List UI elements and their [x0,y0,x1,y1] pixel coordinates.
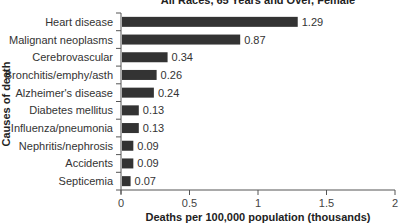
value-label: 0.24 [158,87,179,99]
bar [122,105,139,115]
value-label: 0.09 [137,157,158,169]
category-label: Malignant neoplasms [9,34,113,46]
bar [122,52,168,62]
bars-layer: 1.290.870.340.260.240.130.130.090.090.07 [122,16,323,187]
value-label: 0.09 [137,140,158,152]
bar [122,17,298,27]
x-tick-label: 0 [118,197,124,209]
category-label: Alzheimer's disease [16,87,113,99]
x-tick-label: 1.5 [319,197,334,209]
bar [122,123,139,133]
bar [122,176,131,186]
bar [122,88,154,98]
bar [122,158,133,168]
y-axis-title: Causes of death [0,61,12,146]
value-label: 0.87 [244,34,265,46]
category-label: Heart disease [45,16,113,28]
value-label: 0.13 [143,122,164,134]
chart-title: All Races, 65 Years and Over, Female [161,0,355,6]
value-label: 0.34 [172,51,193,63]
category-label: Diabetes mellitus [29,104,113,116]
bar [122,70,157,80]
x-tick-label: 1 [255,197,261,209]
value-label: 0.07 [135,175,156,187]
x-tick-label: 2 [392,197,398,209]
category-label: Influenza/pneumonia [11,122,114,134]
x-axis-title: Deaths per 100,000 population (thousands… [146,211,371,223]
category-label: Cerebrovascular [32,51,113,63]
value-label: 0.13 [143,104,164,116]
bar-chart: All Races, 65 Years and Over, Female 1.2… [0,0,404,223]
value-label: 1.29 [302,16,323,28]
category-label: Septicemia [59,175,114,187]
bar [122,141,133,151]
category-label: Bronchitis/emphy/asth [5,69,113,81]
value-label: 0.26 [161,69,182,81]
x-tick-label: 0.5 [182,197,197,209]
bar [122,35,240,45]
category-label: Nephritis/nephrosis [19,140,114,152]
category-label: Accidents [65,157,113,169]
